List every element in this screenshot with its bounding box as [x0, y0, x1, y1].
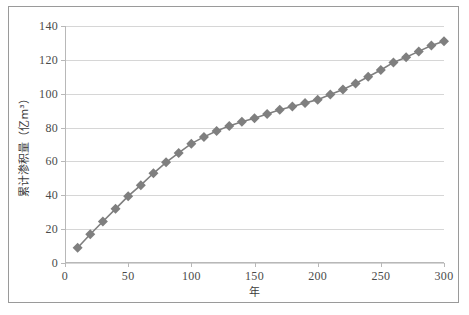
- x-tick-label: 0: [62, 269, 68, 284]
- x-tick-label: 100: [182, 269, 201, 284]
- x-tick-mark: [444, 263, 445, 267]
- x-tick-mark: [191, 263, 192, 267]
- x-tick-mark: [318, 263, 319, 267]
- data-point-marker: [439, 36, 449, 46]
- y-axis-title-label: 累计渗积量（亿m³）: [15, 93, 31, 196]
- x-tick-mark: [128, 263, 129, 267]
- x-tick-label: 250: [371, 269, 390, 284]
- data-point-marker: [338, 84, 348, 94]
- data-point-marker: [363, 72, 373, 82]
- plot-wrap: 累计渗积量（亿m³） 020406080100120140 0501001502…: [9, 7, 460, 304]
- data-point-marker: [376, 65, 386, 75]
- data-point-marker: [401, 52, 411, 62]
- y-tick-label: 0: [52, 256, 58, 271]
- x-tick-label: 150: [245, 269, 264, 284]
- y-tick-label: 120: [39, 52, 58, 67]
- y-tick-label: 140: [39, 19, 58, 34]
- x-tick-label: 200: [308, 269, 327, 284]
- data-point-marker: [426, 40, 436, 50]
- plot-area: 020406080100120140 050100150200250300: [65, 26, 444, 263]
- y-tick-label: 80: [45, 120, 58, 135]
- data-point-marker: [388, 57, 398, 67]
- data-point-marker: [313, 95, 323, 105]
- y-tick-label: 60: [45, 154, 58, 169]
- data-point-marker: [237, 117, 247, 127]
- x-axis-title-label: 年: [249, 286, 260, 299]
- x-axis-title: 年: [65, 283, 444, 299]
- data-point-marker: [287, 101, 297, 111]
- y-tick-label: 40: [45, 188, 58, 203]
- data-point-marker: [199, 132, 209, 142]
- series-polyline: [78, 41, 444, 248]
- y-tick-label: 20: [45, 222, 58, 237]
- data-series-line: [65, 26, 444, 263]
- data-point-marker: [212, 126, 222, 136]
- x-tick-label: 300: [435, 269, 454, 284]
- data-point-marker: [325, 90, 335, 100]
- data-point-marker: [300, 98, 310, 108]
- x-tick-mark: [381, 263, 382, 267]
- y-tick-label: 100: [39, 86, 58, 101]
- data-point-marker: [262, 109, 272, 119]
- data-point-marker: [250, 113, 260, 123]
- y-axis-title: 累计渗积量（亿m³）: [15, 26, 31, 263]
- x-tick-mark: [65, 263, 66, 267]
- x-tick-label: 50: [122, 269, 135, 284]
- data-point-marker: [351, 79, 361, 89]
- data-point-marker: [275, 105, 285, 115]
- x-tick-mark: [255, 263, 256, 267]
- chart-frame: 累计渗积量（亿m³） 020406080100120140 0501001502…: [8, 6, 459, 303]
- data-point-marker: [414, 46, 424, 56]
- data-point-marker: [224, 121, 234, 131]
- figure-root: 累计渗积量（亿m³） 020406080100120140 0501001502…: [0, 0, 469, 315]
